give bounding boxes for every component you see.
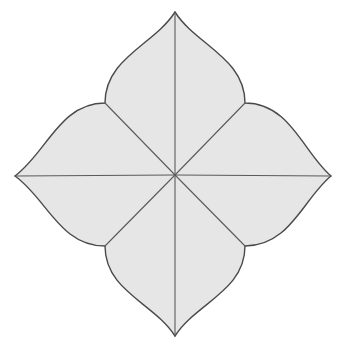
- quatrefoil-figure: Quatrefoil Four-lobed quatrefoil outline…: [0, 0, 340, 350]
- figure-canvas: Quatrefoil Four-lobed quatrefoil outline…: [0, 0, 340, 350]
